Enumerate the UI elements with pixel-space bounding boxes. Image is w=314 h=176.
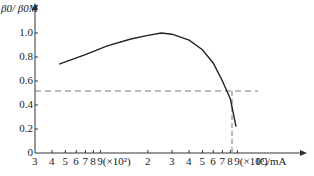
x-tick-label: 3 bbox=[32, 156, 38, 167]
y-tick-label: 0.6 bbox=[19, 75, 33, 86]
y-tick-label: 0.2 bbox=[19, 123, 33, 134]
chart-canvas bbox=[0, 0, 314, 176]
x-tick-label: 3 bbox=[169, 156, 175, 167]
x-tick-label: 6 bbox=[73, 156, 79, 167]
x-tick-label: 9(×10³) bbox=[234, 156, 267, 167]
y-tick-label: 1.0 bbox=[19, 27, 33, 38]
x-tick-label: 7 bbox=[82, 156, 88, 167]
x-tick-label: 4 bbox=[49, 156, 55, 167]
x-tick-label: 8 bbox=[90, 156, 96, 167]
x-tick-label: 2 bbox=[145, 156, 151, 167]
x-axis-arrow-icon bbox=[300, 150, 307, 156]
x-tick-label: 7 bbox=[219, 156, 225, 167]
y-tick-label: 0.4 bbox=[19, 99, 33, 110]
x-tick-label: 5 bbox=[199, 156, 205, 167]
beta-ratio-curve bbox=[59, 33, 236, 127]
y-axis-label: β0/ β0M bbox=[1, 3, 38, 14]
x-tick-label: 6 bbox=[210, 156, 216, 167]
x-tick-label: 5 bbox=[62, 156, 68, 167]
x-tick-label: 8 bbox=[227, 156, 233, 167]
x-tick-label: 4 bbox=[186, 156, 192, 167]
y-tick-label: 0.8 bbox=[19, 51, 33, 62]
x-tick-label: 9(×10²) bbox=[97, 156, 130, 167]
